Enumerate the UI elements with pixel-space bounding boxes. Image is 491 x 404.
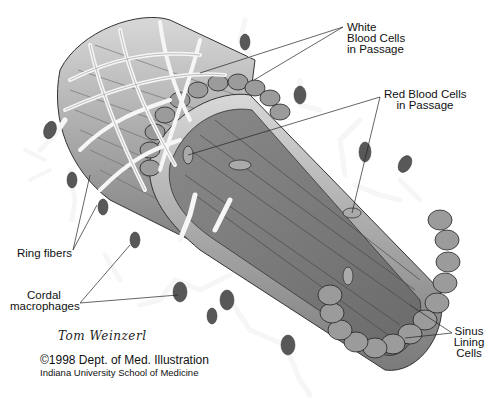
- label-sinus-lining-cells: Sinus Lining Cells: [450, 326, 488, 359]
- label-white-blood-cells: White Blood Cells in Passage: [347, 22, 405, 55]
- splenic-sinus-illustration: [0, 0, 491, 404]
- label-line: in Passage: [347, 44, 405, 55]
- label-ring-fibers: Ring fibers: [17, 248, 72, 259]
- institution-line: Indiana University School of Medicine: [40, 367, 198, 378]
- artist-signature: Tom Weinzerl: [58, 329, 147, 343]
- copyright-line: ©1998 Dept. of Med. Illustration: [40, 353, 209, 367]
- label-line: Ring fibers: [17, 248, 72, 259]
- label-cordal-macrophages: Cordal macrophages: [10, 290, 78, 312]
- label-red-blood-cells: Red Blood Cells in Passage: [384, 89, 466, 111]
- label-line: in Passage: [384, 100, 466, 111]
- label-line: macrophages: [10, 301, 78, 312]
- label-line: Cells: [450, 348, 488, 359]
